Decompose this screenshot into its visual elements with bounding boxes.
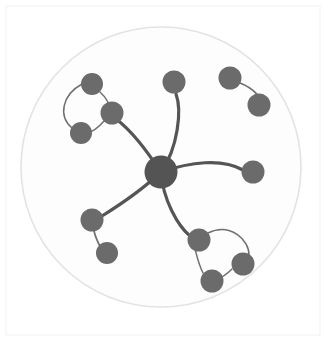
graph-node[interactable] [188,229,211,252]
graph-node[interactable] [163,71,186,94]
network-graph-figure [0,0,326,341]
graph-canvas [0,0,326,341]
graph-node[interactable] [101,102,124,125]
graph-node[interactable] [81,209,104,232]
graph-node[interactable] [248,94,271,117]
hub-node[interactable] [145,156,178,189]
graph-node[interactable] [242,161,265,184]
graph-node[interactable] [232,253,255,276]
graph-node[interactable] [81,73,103,95]
graph-node[interactable] [219,67,242,90]
graph-node[interactable] [70,122,92,144]
graph-node[interactable] [96,242,118,264]
graph-node[interactable] [201,270,224,293]
